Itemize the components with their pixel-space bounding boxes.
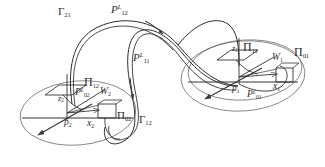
label-gamma12: Γ12 bbox=[139, 114, 152, 126]
p12L-arrow-segment bbox=[145, 21, 163, 34]
label-w1: W1 bbox=[272, 53, 283, 63]
label-p12L: PL12 bbox=[111, 4, 128, 16]
label-w2: W2 bbox=[100, 87, 111, 97]
right-box-pi01-edge bbox=[276, 63, 299, 68]
label-p01L: PL01 bbox=[247, 90, 261, 100]
label-p02L: PL02 bbox=[75, 88, 89, 98]
label-pi01: Π01 bbox=[294, 46, 309, 59]
label-z1: z1 bbox=[232, 44, 238, 54]
label-z2: z2 bbox=[58, 94, 64, 104]
figure-canvas: Γ21 PL12 PL11 Γ12 Π12 PL02 W2 z2 p2 x2 Π… bbox=[0, 0, 325, 167]
left-box-pi02-edge bbox=[98, 100, 122, 104]
label-x2: x2 bbox=[87, 119, 94, 129]
label-p2: p2 bbox=[64, 118, 71, 128]
label-x1: x1 bbox=[273, 82, 280, 92]
right-box-pi01 bbox=[276, 68, 293, 82]
label-gamma21: Γ21 bbox=[58, 6, 71, 18]
label-p11L: PL11 bbox=[133, 52, 149, 64]
label-p1: p1 bbox=[232, 84, 239, 94]
left-box-pi02 bbox=[98, 104, 116, 118]
label-pi11: Π11 bbox=[243, 41, 258, 54]
label-pi02: Π02 bbox=[117, 110, 131, 122]
